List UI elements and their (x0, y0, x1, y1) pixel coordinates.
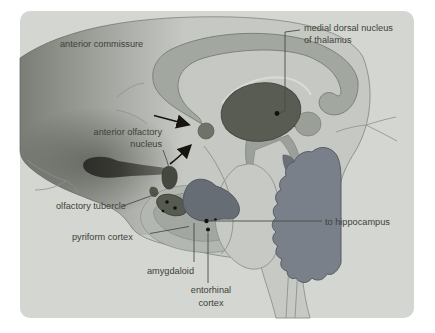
small-path-dot (214, 218, 217, 221)
label-anterior-olfactory-2: nucleus (130, 139, 162, 149)
label-pyriform-cortex: pyriform cortex (72, 232, 133, 242)
tubercle-dot-2 (173, 206, 177, 210)
label-entorhinal-2: cortex (198, 298, 223, 308)
label-entorhinal-1: entorhinal (191, 285, 231, 295)
label-anterior-commissure: anterior commissure (60, 39, 143, 49)
label-medial-dorsal-2: of thalamus (304, 35, 352, 45)
entorhinal-dot (206, 228, 210, 232)
label-to-hippocampus: to hippocampus (325, 217, 390, 227)
tubercle-dot-1 (165, 200, 169, 204)
brain-diagram: anterior commissure medial dorsal nucleu… (0, 0, 435, 333)
anterior-olfactory-nucleus-shape (162, 166, 177, 189)
label-olfactory-tubercle: olfactory tubercle (56, 201, 126, 211)
label-amygdaloid: amygdaloid (147, 266, 194, 276)
tubercle-dot-3 (162, 210, 165, 213)
hippocampus-path-dot (204, 219, 208, 223)
medial-dorsal-dot (275, 111, 280, 116)
anterior-commissure-dot (198, 123, 214, 139)
figure-canvas: anterior commissure medial dorsal nucleu… (0, 0, 435, 333)
label-medial-dorsal-1: medial dorsal nucleus (304, 23, 393, 33)
label-anterior-olfactory-1: anterior olfactory (94, 127, 163, 137)
